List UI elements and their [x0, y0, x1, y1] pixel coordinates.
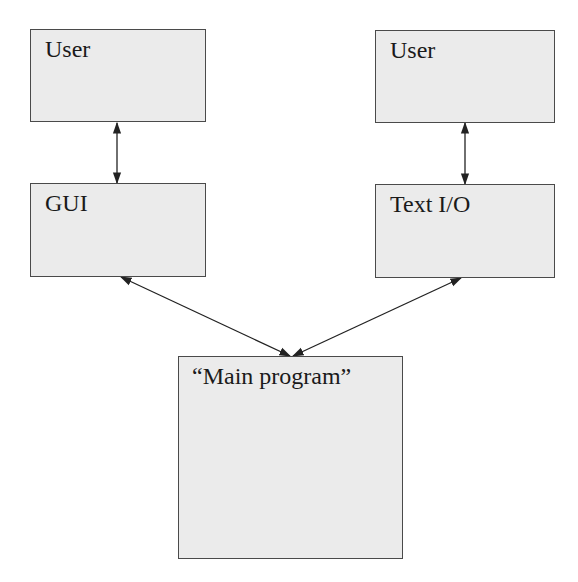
node-label: “Main program” [192, 363, 351, 390]
node-text-io: Text I/O [375, 184, 555, 278]
node-label: User [45, 36, 90, 63]
node-label: User [390, 37, 435, 64]
node-gui: GUI [30, 183, 206, 277]
node-main-program: “Main program” [178, 356, 403, 559]
node-label: GUI [45, 190, 88, 217]
node-user-left: User [30, 29, 206, 122]
arrow-textio-main [293, 278, 461, 356]
arrow-gui-main [121, 277, 290, 356]
node-user-right: User [375, 30, 555, 123]
node-label: Text I/O [390, 191, 470, 218]
